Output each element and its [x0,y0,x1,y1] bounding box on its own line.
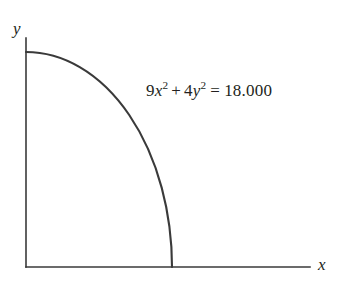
ellipse-figure-svg [0,0,337,284]
equation-coefficient-y: 4 [184,81,193,100]
equation-right-hand-side: 18.000 [224,81,272,100]
equation-annotation: 9x2+4y2=18.000 [146,82,272,101]
equation-coefficient-x: 9 [146,81,155,100]
equation-equals-sign: = [210,81,220,100]
equation-variable-y: y [193,81,201,100]
equation-operator: + [171,81,181,100]
figure-background [0,0,337,284]
figure-canvas: y x 9x2+4y2=18.000 [0,0,337,284]
equation-exponent-x: 2 [162,79,168,91]
x-axis-label: x [318,256,326,273]
equation-exponent-y: 2 [201,79,207,91]
y-axis-label: y [13,20,21,37]
